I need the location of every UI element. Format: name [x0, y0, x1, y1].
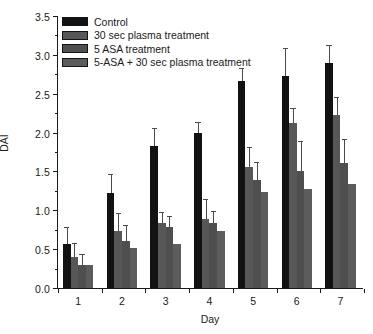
- bar: [71, 257, 79, 288]
- bar: [304, 189, 312, 288]
- error-bar-cap: [211, 211, 216, 212]
- y-tick-label: 3.5: [35, 11, 50, 23]
- error-bar: [337, 98, 338, 116]
- error-bar-cap: [108, 174, 113, 175]
- error-bar: [293, 109, 294, 123]
- error-bar-cap: [247, 147, 252, 148]
- error-bar-cap: [290, 108, 295, 109]
- error-bar: [82, 255, 83, 266]
- x-tick: [145, 289, 146, 293]
- x-tick: [189, 289, 190, 293]
- error-bar-cap: [195, 122, 200, 123]
- y-tick-label: 2.5: [35, 89, 50, 101]
- error-bar: [118, 214, 119, 231]
- bar: [282, 76, 290, 288]
- error-bar: [213, 212, 214, 223]
- bar: [78, 265, 86, 288]
- y-axis-title: DAI: [0, 123, 10, 163]
- error-bar-cap: [152, 128, 157, 129]
- error-bar: [74, 244, 75, 257]
- error-bar: [67, 228, 68, 244]
- error-bar-cap: [283, 48, 288, 49]
- error-bar-cap: [79, 254, 84, 255]
- x-tick: [320, 289, 321, 293]
- bar: [253, 180, 261, 288]
- error-bar: [169, 217, 170, 227]
- x-axis-tick-labels: 1234567: [57, 295, 363, 311]
- error-bar-cap: [342, 139, 347, 140]
- bar: [348, 184, 356, 288]
- x-tick: [364, 289, 365, 293]
- legend-swatch: [62, 58, 88, 67]
- y-tick-label: 0.5: [35, 244, 50, 256]
- error-bar-cap: [159, 212, 164, 213]
- bar: [63, 244, 71, 288]
- y-tick-label: 2.0: [35, 128, 50, 140]
- bar: [114, 231, 122, 288]
- error-bar-cap: [123, 225, 128, 226]
- error-bar: [329, 46, 330, 63]
- bar: [130, 248, 138, 288]
- legend-label: 5-ASA + 30 sec plasma treatment: [94, 57, 251, 68]
- error-bar: [154, 129, 155, 146]
- x-tick-label: 2: [119, 295, 125, 307]
- legend-item: Control: [62, 15, 251, 29]
- bar: [166, 227, 174, 288]
- x-tick-label: 6: [294, 295, 300, 307]
- error-bar-cap: [254, 162, 259, 163]
- bar: [217, 231, 225, 288]
- error-bar-cap: [167, 216, 172, 217]
- error-bar: [285, 49, 286, 76]
- error-bar: [301, 142, 302, 171]
- error-bar: [206, 200, 207, 219]
- error-bar-cap: [203, 199, 208, 200]
- legend-item: 5 ASA treatment: [62, 42, 251, 56]
- legend-item: 5-ASA + 30 sec plasma treatment: [62, 56, 251, 70]
- x-tick: [233, 289, 234, 293]
- error-bar: [257, 163, 258, 180]
- error-bar: [249, 148, 250, 167]
- legend-label: 30 sec plasma treatment: [94, 30, 209, 41]
- x-tick-label: 4: [206, 295, 212, 307]
- x-axis-title: Day: [57, 313, 363, 325]
- bar: [297, 171, 305, 288]
- x-tick: [277, 289, 278, 293]
- legend-swatch: [62, 31, 88, 40]
- legend-label: Control: [94, 17, 128, 28]
- x-tick-label: 7: [338, 295, 344, 307]
- bar: [289, 123, 297, 288]
- x-axis-ticks: [57, 289, 363, 294]
- bar: [325, 63, 333, 288]
- bar-chart-figure: 0.00.51.01.52.02.53.03.5 1234567 DAI Day…: [0, 0, 373, 334]
- y-tick-label: 1.0: [35, 205, 50, 217]
- bar: [261, 192, 269, 288]
- bar: [245, 167, 253, 288]
- error-bar: [162, 213, 163, 223]
- y-tick-label: 3.0: [35, 50, 50, 62]
- bar: [173, 244, 181, 288]
- bar: [333, 115, 341, 288]
- legend-swatch: [62, 44, 88, 53]
- bar: [150, 146, 158, 288]
- x-tick: [58, 289, 59, 293]
- legend-label: 5 ASA treatment: [94, 44, 170, 55]
- chart-legend: Control30 sec plasma treatment5 ASA trea…: [62, 15, 251, 69]
- bar: [86, 265, 94, 288]
- error-bar: [126, 226, 127, 241]
- bar: [202, 219, 210, 288]
- bar: [122, 241, 130, 288]
- bar: [209, 223, 217, 288]
- error-bar-cap: [72, 243, 77, 244]
- legend-swatch: [62, 17, 88, 26]
- bar: [194, 133, 202, 288]
- error-bar: [198, 123, 199, 132]
- error-bar: [111, 175, 112, 193]
- bar: [340, 163, 348, 288]
- error-bar-cap: [326, 45, 331, 46]
- y-tick-label: 0.0: [35, 283, 50, 295]
- error-bar-cap: [298, 141, 303, 142]
- x-tick-label: 3: [163, 295, 169, 307]
- bar: [158, 223, 166, 288]
- y-tick-label: 1.5: [35, 166, 50, 178]
- x-tick: [102, 289, 103, 293]
